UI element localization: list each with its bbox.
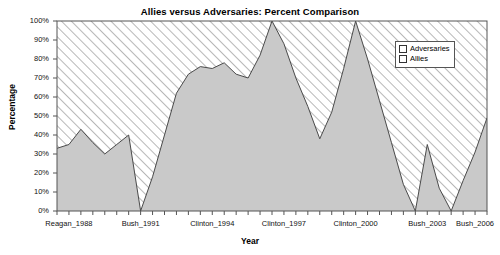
- y-tick-label: 100%: [15, 16, 49, 25]
- legend-item-adversaries[interactable]: Adversaries: [399, 44, 450, 54]
- y-tick-label: 40%: [15, 130, 49, 139]
- x-tick-label: Clinton_1997: [244, 219, 324, 228]
- chart-title: Allies versus Adversaries: Percent Compa…: [0, 6, 500, 17]
- legend-item-allies[interactable]: Allies: [399, 54, 450, 64]
- chart-container: Allies versus Adversaries: Percent Compa…: [0, 0, 500, 255]
- y-tick-label: 90%: [15, 35, 49, 44]
- x-tick-label: Clinton_1994: [172, 219, 252, 228]
- y-tick-label: 10%: [15, 187, 49, 196]
- x-tick-marks: [57, 211, 487, 215]
- y-tick-label: 20%: [15, 168, 49, 177]
- plot-area: [0, 0, 500, 255]
- x-tick-label: Bush_2006: [435, 219, 500, 228]
- y-tick-label: 80%: [15, 54, 49, 63]
- legend-label-adversaries: Adversaries: [410, 44, 450, 54]
- y-tick-label: 50%: [15, 111, 49, 120]
- x-axis-label: Year: [0, 236, 500, 246]
- y-tick-label: 60%: [15, 92, 49, 101]
- x-tick-label: Reagan_1988: [29, 219, 109, 228]
- legend-label-allies: Allies: [410, 54, 428, 64]
- legend-swatch-allies-icon: [399, 55, 407, 63]
- chart-legend[interactable]: Adversaries Allies: [395, 41, 455, 68]
- y-tick-marks: [53, 21, 57, 211]
- y-tick-label: 0%: [15, 206, 49, 215]
- y-axis-label: Percentage: [7, 57, 17, 157]
- x-tick-label: Bush_1991: [101, 219, 181, 228]
- y-tick-label: 30%: [15, 149, 49, 158]
- y-tick-label: 70%: [15, 73, 49, 82]
- legend-swatch-adversaries-icon: [399, 45, 407, 53]
- x-tick-label: Clinton_2000: [316, 219, 396, 228]
